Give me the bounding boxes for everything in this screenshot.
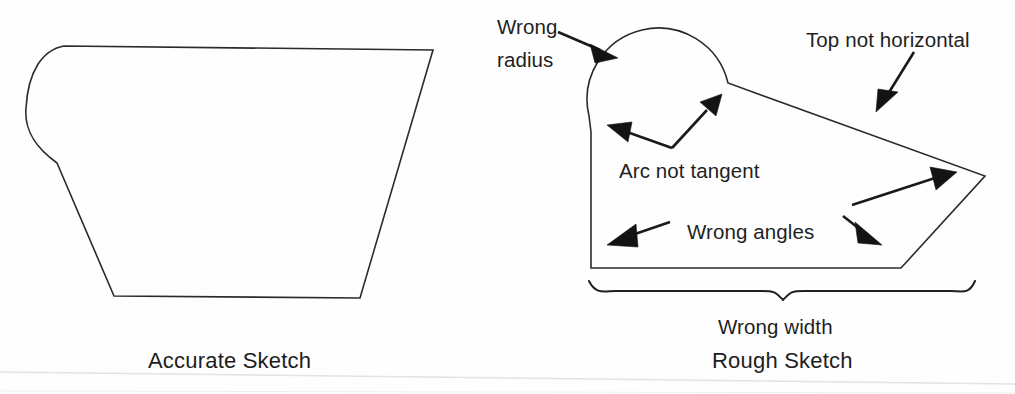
annotation-top-not-horizontal bbox=[876, 52, 914, 112]
curly-brace-underline-icon bbox=[589, 281, 975, 300]
caption-accurate-sketch: Accurate Sketch bbox=[148, 348, 311, 373]
arc-not-tangent-leader-left bbox=[627, 132, 672, 148]
wrong-angles-leader-right bbox=[852, 178, 935, 205]
annotation-wrong-angles-label: Wrong angles bbox=[687, 220, 814, 243]
sheet-edge-line-lower bbox=[0, 391, 1015, 393]
wrong-radius-arrowhead bbox=[590, 44, 618, 63]
arc-not-tangent-arrowhead-left bbox=[607, 122, 632, 142]
wrong-angles-arrowhead-right bbox=[930, 167, 957, 190]
wrong-angles-arrowhead-right-lower bbox=[855, 222, 882, 245]
accurate-profile-outline bbox=[26, 46, 433, 298]
figure-root: Wrong radius Top not horizontal Arc not … bbox=[0, 0, 1015, 394]
annotation-wrong-radius-line1: Wrong bbox=[497, 15, 558, 38]
annotation-arc-not-tangent bbox=[607, 94, 722, 148]
accurate-sketch-group bbox=[26, 46, 433, 298]
sheet-edge-line-upper bbox=[0, 372, 1015, 384]
annotation-wrong-radius-line2: radius bbox=[497, 48, 553, 71]
annotation-wrong-width-brace bbox=[589, 281, 975, 300]
top-not-horizontal-leader bbox=[888, 52, 914, 94]
top-not-horizontal-arrowhead bbox=[876, 89, 898, 112]
annotation-top-not-horizontal-label: Top not horizontal bbox=[806, 28, 970, 51]
wrong-angles-leader-right-lower bbox=[843, 216, 857, 227]
wrong-angles-leader-left bbox=[635, 222, 670, 234]
wrong-angles-arrowhead-left bbox=[607, 224, 638, 247]
caption-rough-sketch: Rough Sketch bbox=[712, 348, 853, 373]
annotation-arc-not-tangent-label: Arc not tangent bbox=[619, 159, 760, 182]
arc-not-tangent-leader-right bbox=[672, 110, 707, 148]
sketch-comparison-canvas: Wrong radius Top not horizontal Arc not … bbox=[0, 0, 1015, 394]
scan-sheet-edges bbox=[0, 372, 1015, 393]
annotation-wrong-width-label: Wrong width bbox=[718, 315, 833, 338]
